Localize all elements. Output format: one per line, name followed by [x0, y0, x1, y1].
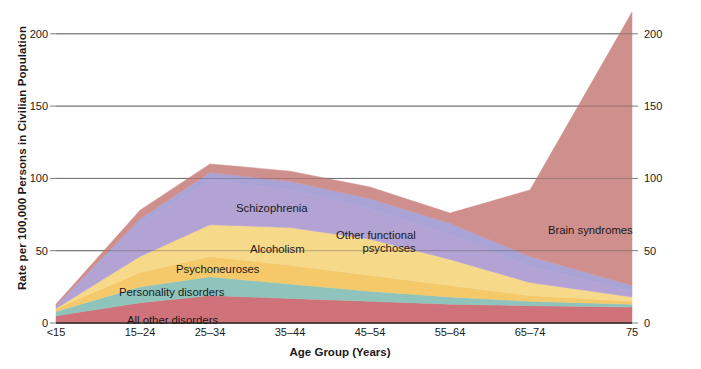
area-chart: Rate per 100,000 Persons in Civilian Pop…: [0, 0, 701, 369]
y-tick-label-left-150: 150: [14, 100, 48, 112]
x-tick-label-6: 65–74: [515, 326, 546, 338]
x-tick-label-1: 15–24: [125, 326, 156, 338]
x-tick-label-0: <15: [47, 326, 66, 338]
x-tick-label-2: 25–34: [195, 326, 226, 338]
x-tick-label-4: 45–54: [355, 326, 386, 338]
x-axis-title: Age Group (Years): [0, 346, 680, 358]
y-tick-label-right-50: 50: [644, 245, 684, 257]
y-tick-label-left-100: 100: [14, 172, 48, 184]
y-tick-label-left-200: 200: [14, 28, 48, 40]
x-tick-label-5: 55–64: [435, 326, 466, 338]
plot-area: [0, 0, 701, 369]
x-tick-label-7: 75: [626, 326, 638, 338]
y-tick-label-right-150: 150: [644, 100, 684, 112]
y-tick-label-right-0: 0: [644, 317, 684, 329]
y-tick-label-left-0: 0: [14, 317, 48, 329]
y-tick-label-right-100: 100: [644, 172, 684, 184]
y-tick-label-right-200: 200: [644, 28, 684, 40]
x-tick-label-3: 35–44: [275, 326, 306, 338]
y-tick-label-left-50: 50: [14, 245, 48, 257]
